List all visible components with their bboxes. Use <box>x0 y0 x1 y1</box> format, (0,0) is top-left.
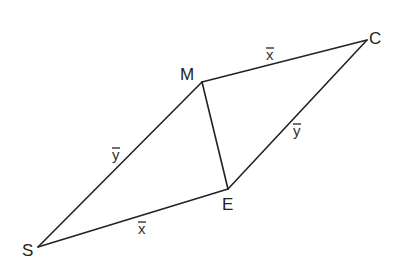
edges <box>38 40 367 247</box>
vector-label-ec: y <box>293 122 301 139</box>
vector-label-sm: y <box>112 146 120 163</box>
edge-mc <box>202 40 367 82</box>
vertex-labels: SECM <box>22 29 381 260</box>
parallelogram-diagram: yxyx SECM <box>0 0 401 266</box>
vector-label-mc: x <box>266 46 274 63</box>
vertex-label-s: S <box>22 241 33 260</box>
vertex-label-e: E <box>222 195 233 214</box>
vertex-label-m: M <box>180 65 194 84</box>
edge-me <box>202 82 228 189</box>
edge-ec <box>228 40 367 189</box>
vector-label-se: x <box>138 220 146 237</box>
vertex-label-c: C <box>369 29 381 48</box>
